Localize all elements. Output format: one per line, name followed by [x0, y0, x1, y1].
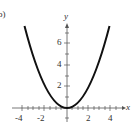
y-tick-label: 4: [57, 60, 62, 69]
x-tick-label: 4: [108, 114, 113, 123]
x-tick-label: -2: [37, 114, 45, 123]
y-tick-label: 2: [57, 81, 62, 90]
y-tick-label: 6: [57, 38, 62, 47]
y-axis-label: y: [64, 12, 68, 21]
x-tick-label: -4: [15, 114, 23, 123]
x-axis-label: x: [126, 103, 130, 112]
y-axis-arrow-icon: [65, 23, 69, 28]
x-tick-label: 2: [86, 114, 91, 123]
